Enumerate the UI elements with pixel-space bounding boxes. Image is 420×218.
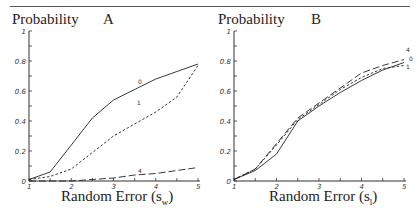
series-line-0 bbox=[234, 63, 404, 180]
y-tick-label: 0 bbox=[227, 178, 232, 186]
y-tick-label: 0.8 bbox=[220, 58, 232, 66]
curve-label: 1 bbox=[406, 63, 410, 70]
plot-area: 1234500.20.40.60.81401 bbox=[210, 0, 420, 218]
curve-label: 0 bbox=[409, 55, 413, 62]
chart-panel-b: Probability B 1234500.20.40.60.81401 Ran… bbox=[210, 0, 420, 218]
series-line-4 bbox=[234, 60, 404, 180]
y-tick-label: 0.2 bbox=[220, 148, 232, 156]
series-line-0 bbox=[29, 64, 198, 180]
x-axis-label: Random Error (sw) bbox=[61, 188, 173, 207]
x-tick-label: 5 bbox=[402, 183, 407, 191]
y-tick-label: 0.4 bbox=[220, 118, 231, 126]
curve-label: 4 bbox=[406, 46, 410, 53]
chart-panel-a: Probability A 1234500.20.40.60.81014 Ran… bbox=[0, 0, 210, 218]
y-tick-label: 0.2 bbox=[15, 148, 27, 156]
curve-label: 1 bbox=[137, 99, 141, 106]
x-tick-label: 1 bbox=[232, 183, 236, 191]
series-line-1 bbox=[29, 66, 198, 180]
x-axis-label: Random Error (sl) bbox=[269, 188, 377, 207]
y-tick-label: 0.6 bbox=[220, 88, 232, 96]
series-line-1 bbox=[234, 66, 404, 180]
y-tick-label: 0.6 bbox=[15, 88, 27, 96]
curve-label: 0 bbox=[138, 78, 142, 85]
plot-area: 1234500.20.40.60.81014 bbox=[0, 0, 210, 218]
y-tick-label: 0.4 bbox=[15, 118, 26, 126]
curve-label: 4 bbox=[138, 167, 142, 174]
y-tick-label: 1 bbox=[22, 28, 26, 36]
x-tick-label: 5 bbox=[196, 183, 201, 191]
y-tick-label: 0 bbox=[22, 178, 27, 186]
x-tick-label: 1 bbox=[27, 183, 31, 191]
y-tick-label: 1 bbox=[227, 28, 231, 36]
y-tick-label: 0.8 bbox=[15, 58, 27, 66]
